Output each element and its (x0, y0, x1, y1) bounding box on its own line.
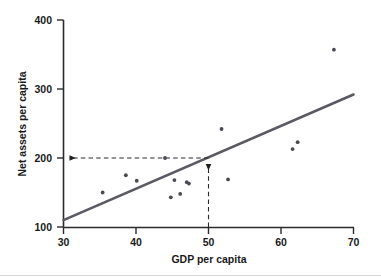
data-point (173, 178, 177, 182)
x-tick-label-30: 30 (58, 236, 70, 248)
data-point (169, 195, 173, 199)
y-axis: 400 300 200 100 Net assets per capita (16, 14, 64, 233)
x-tick-label-50: 50 (203, 236, 215, 248)
y-tick-label-100: 100 (34, 221, 52, 233)
data-points-layer (101, 48, 336, 199)
data-point (187, 182, 191, 186)
x-tick-label-70: 70 (348, 236, 360, 248)
data-point (124, 173, 128, 177)
guide-annotations (70, 158, 209, 227)
y-axis-title: Net assets per capita (16, 71, 28, 176)
x-tick-label-60: 60 (275, 236, 287, 248)
data-point (226, 177, 230, 181)
data-point (220, 127, 224, 131)
data-point (291, 147, 295, 151)
x-axis-title: GDP per capita (171, 253, 246, 265)
data-point (101, 191, 105, 195)
data-point (163, 156, 167, 160)
x-axis: 30 40 50 60 70 GDP per capita (58, 228, 360, 266)
y-tick-label-200: 200 (34, 152, 52, 164)
scatter-chart: 400 300 200 100 Net assets per capita 30… (0, 0, 381, 280)
data-point (135, 179, 139, 183)
y-tick-label-400: 400 (34, 14, 52, 26)
x-tick-label-40: 40 (130, 236, 142, 248)
chart-canvas: 400 300 200 100 Net assets per capita 30… (0, 0, 381, 280)
y-tick-label-300: 300 (34, 83, 52, 95)
data-point (296, 140, 300, 144)
data-point (178, 192, 182, 196)
data-point (332, 48, 336, 52)
